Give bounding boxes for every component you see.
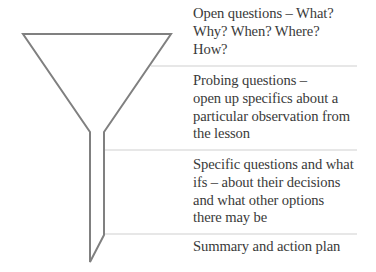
stage-specific-questions: Specific questions and what ifs – about … — [193, 156, 373, 227]
stage-line: How? — [193, 41, 373, 59]
stage-line: particular observation from — [193, 108, 373, 126]
stage-line: the lesson — [193, 125, 373, 143]
stage-probing-questions: Probing questions – open up specifics ab… — [193, 72, 373, 143]
stage-summary: Summary and action plan — [193, 238, 373, 256]
stage-line: Specific questions and what — [193, 156, 373, 174]
stage-line: Summary and action plan — [193, 238, 373, 256]
stage-open-questions: Open questions – What? Why? When? Where?… — [193, 5, 373, 58]
funnel-shape — [23, 34, 171, 262]
stage-line: there may be — [193, 209, 373, 227]
stage-line: and what other options — [193, 192, 373, 210]
stage-line: Open questions – What? — [193, 5, 373, 23]
stage-line: Probing questions – — [193, 72, 373, 90]
stage-line: Why? When? Where? — [193, 23, 373, 41]
stage-line: ifs – about their decisions — [193, 174, 373, 192]
stage-line: open up specifics about a — [193, 90, 373, 108]
